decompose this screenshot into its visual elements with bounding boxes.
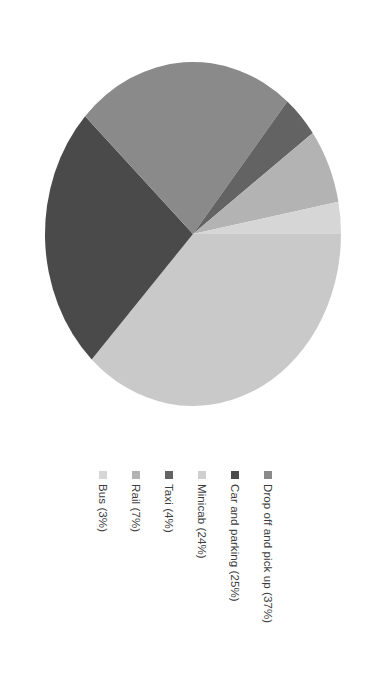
pie-chart-plot-area: [23, 62, 363, 406]
legend-item: Drop off and pick up (37%): [261, 468, 279, 668]
legend-item-label: Taxi (4%): [161, 484, 175, 674]
legend-color-swatch: [132, 471, 140, 479]
legend-item-label: Minicab (24%): [194, 484, 208, 674]
legend-item-label: Bus (3%): [95, 484, 109, 674]
legend-item: Car and parking (25%): [228, 468, 246, 668]
legend-color-swatch: [231, 471, 239, 479]
pie-chart-svg: [23, 62, 363, 406]
legend-item-label: Rail (7%): [128, 484, 142, 674]
legend-item: Bus (3%): [96, 468, 114, 668]
legend-color-swatch: [99, 471, 107, 479]
legend-color-swatch: [165, 471, 173, 479]
pie-slice-group: [45, 62, 341, 406]
legend-item-label: Car and parking (25%): [227, 484, 241, 674]
legend-item: Minicab (24%): [195, 468, 213, 668]
legend-item-label: Drop off and pick up (37%): [260, 484, 274, 674]
legend-color-swatch: [264, 471, 272, 479]
chart-legend: Bus (3%)Rail (7%)Taxi (4%)Minicab (24%)C…: [96, 468, 276, 668]
legend-color-swatch: [198, 471, 206, 479]
legend-item: Taxi (4%): [162, 468, 180, 668]
pie-chart-figure: Bus (3%)Rail (7%)Taxi (4%)Minicab (24%)C…: [0, 0, 372, 682]
legend-item: Rail (7%): [129, 468, 147, 668]
